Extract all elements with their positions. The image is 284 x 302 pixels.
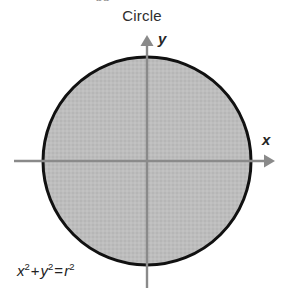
equation-y-variable: y — [41, 262, 49, 279]
circle-equation: x2+y2=r2 — [17, 262, 74, 279]
equation-equals-operator: = — [53, 262, 64, 279]
equation-x-variable: x — [17, 262, 25, 279]
x-axis-arrowhead-icon — [264, 155, 275, 168]
y-axis-label: y — [158, 30, 166, 47]
equation-r-exponent: 2 — [69, 261, 74, 272]
circle-figure: pp Circle y x x2+y2=r2 — [0, 0, 284, 302]
x-axis-label: x — [262, 131, 270, 148]
circle-diagram-canvas — [0, 0, 284, 302]
equation-plus-operator: + — [30, 262, 41, 279]
equation-x-exponent: 2 — [25, 261, 30, 272]
y-axis-arrowhead-icon — [141, 35, 154, 46]
